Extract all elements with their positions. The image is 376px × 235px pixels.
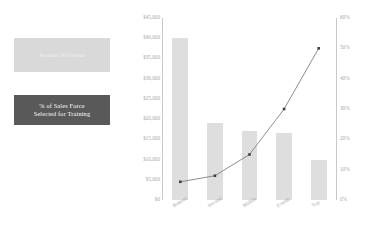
right-axis-tick-label: 30%	[340, 106, 350, 111]
legend-label-sales-force-training: % of Sales Force Selected for Training	[34, 102, 90, 117]
legend-label-line-1: % of Sales Force	[34, 102, 90, 110]
legend-label-annual-revenue: Annual Revenue	[39, 51, 85, 59]
left-axis-tick-label: $30,000	[143, 76, 160, 81]
left-axis-tick-label: $0	[155, 197, 160, 202]
trend-line	[180, 48, 318, 181]
category-label-top: Top	[311, 200, 321, 209]
plot-area: $0$5,000$10,000$15,000$20,000$25,000$30,…	[163, 18, 336, 200]
chart-legend: Annual Revenue % of Sales Force Selected…	[14, 38, 110, 125]
right-axis-tick-label: 0%	[340, 197, 347, 202]
chart-plot-wrapper: $0$5,000$10,000$15,000$20,000$25,000$30,…	[118, 10, 366, 225]
trend-line-markers	[179, 47, 320, 183]
legend-label-line-2: Selected for Training	[34, 110, 90, 118]
left-axis-tick-label: $45,000	[143, 15, 160, 20]
left-axis-tick-label: $35,000	[143, 55, 160, 60]
legend-item-annual-revenue: Annual Revenue	[14, 38, 110, 72]
right-axis-tick-label: 60%	[340, 15, 350, 20]
left-axis-tick-label: $25,000	[143, 96, 160, 101]
chart-page: Annual Revenue % of Sales Force Selected…	[0, 0, 376, 235]
line-marker-top	[317, 47, 320, 50]
line-marker-bottom	[179, 181, 182, 184]
left-axis-tick-label: $40,000	[143, 35, 160, 40]
right-axis-tick-label: 10%	[340, 167, 350, 172]
line-marker-middle	[248, 153, 251, 156]
right-axis-line	[336, 18, 337, 200]
left-axis-tick-label: $5,000	[146, 177, 160, 182]
legend-item-sales-force-training: % of Sales Force Selected for Training	[14, 95, 110, 125]
right-axis-tick-label: 50%	[340, 45, 350, 50]
left-axis-tick-label: $15,000	[143, 136, 160, 141]
line-series	[163, 18, 336, 200]
right-axis-tick-label: 20%	[340, 136, 350, 141]
left-axis-tick-label: $20,000	[143, 116, 160, 121]
right-axis-tick-label: 40%	[340, 76, 350, 81]
line-marker-fourth	[283, 108, 286, 111]
line-marker-second	[214, 174, 217, 177]
left-axis-tick-label: $10,000	[143, 157, 160, 162]
